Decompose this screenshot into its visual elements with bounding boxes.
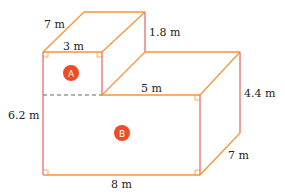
svg-text:B: B [119, 129, 125, 139]
label-step-width: 5 m [141, 82, 162, 95]
badge-a: A [63, 65, 79, 81]
label-total-height: 6.2 m [8, 109, 40, 122]
label-depth-bottom: 7 m [228, 149, 249, 162]
label-height-a: 1.8 m [149, 26, 181, 39]
svg-text:A: A [68, 69, 75, 79]
label-width-a: 3 m [63, 40, 84, 53]
step-top [102, 52, 240, 95]
badge-b: B [114, 125, 130, 141]
label-width-b: 8 m [111, 178, 132, 191]
label-height-b-right: 4.4 m [244, 87, 276, 100]
label-depth-top: 7 m [44, 18, 65, 31]
composite-prism-diagram: A B 7 m 3 m 1.8 m 5 m 4.4 m 6.2 m 8 m 7 … [0, 0, 285, 195]
